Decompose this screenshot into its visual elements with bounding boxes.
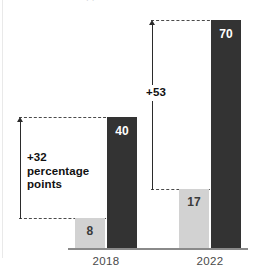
bar-2022-dark: 70 bbox=[211, 20, 241, 248]
plot-area: +32 percentage points +53 8 40 17 70 bbox=[0, 0, 259, 277]
annotation-2022-up-arrow-icon bbox=[149, 20, 155, 25]
annotation-2022-top-dashed-line bbox=[151, 20, 215, 21]
bar-value-2018-dark: 40 bbox=[107, 124, 137, 138]
annotation-2022-label: +53 bbox=[139, 85, 173, 101]
x-axis-tick-2018: 2018 bbox=[76, 255, 136, 267]
bar-2018-light: 8 bbox=[75, 218, 105, 248]
bar-chart-figure: · · +32 percentage points +53 8 bbox=[0, 0, 259, 277]
annotation-2018-label-line3: points bbox=[27, 178, 62, 190]
annotation-2018-vertical-line bbox=[20, 120, 21, 219]
annotation-2018-top-dashed-line bbox=[19, 117, 111, 118]
bar-value-2022-dark: 70 bbox=[211, 27, 241, 41]
annotation-2018-label-line1: +32 bbox=[27, 151, 47, 163]
annotation-2022-vertical-line bbox=[152, 23, 153, 190]
x-axis-tick-2022: 2022 bbox=[180, 255, 240, 267]
annotation-2018-label: +32 percentage points bbox=[25, 150, 99, 193]
annotation-2018-up-arrow-icon bbox=[17, 117, 23, 122]
bar-2018-dark: 40 bbox=[107, 117, 137, 248]
annotation-2022-label-line1: +53 bbox=[146, 86, 166, 98]
bar-value-2022-light: 17 bbox=[179, 195, 209, 209]
bar-2022-light: 17 bbox=[179, 189, 209, 248]
annotation-2018-label-line2: percentage bbox=[27, 165, 89, 177]
x-axis-line bbox=[68, 248, 248, 250]
bar-value-2018-light: 8 bbox=[75, 224, 105, 238]
